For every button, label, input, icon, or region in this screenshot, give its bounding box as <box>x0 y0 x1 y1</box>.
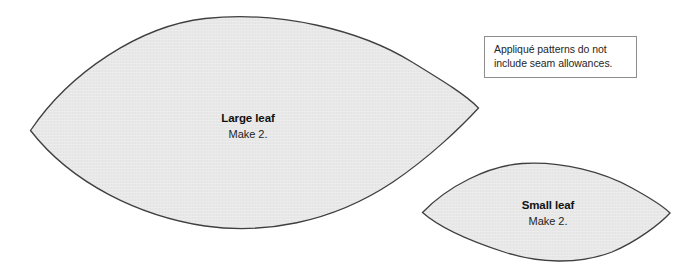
note-line-2: include seam allowances. <box>494 57 612 69</box>
seam-allowance-note-text: Appliqué patterns do not include seam al… <box>485 43 620 71</box>
small-leaf-shape[interactable] <box>423 163 671 261</box>
large-leaf-shape[interactable] <box>31 17 479 229</box>
seam-allowance-note-box: Appliqué patterns do not include seam al… <box>484 36 637 78</box>
note-line-1: Appliqué patterns do not <box>494 43 607 55</box>
pattern-sheet: Large leaf Make 2. Small leaf Make 2. Ap… <box>0 0 690 275</box>
